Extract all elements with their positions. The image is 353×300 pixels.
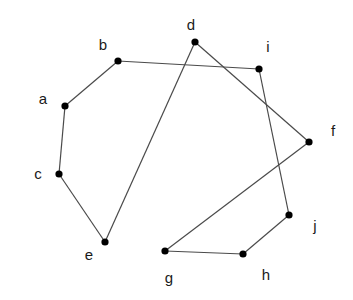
edge-a-c	[59, 106, 65, 174]
node-h	[239, 250, 246, 257]
node-g	[161, 247, 168, 254]
node-e	[101, 238, 108, 245]
node-label-b: b	[99, 36, 107, 53]
node-label-g: g	[165, 269, 173, 286]
node-label-a: a	[39, 90, 48, 107]
node-label-j: j	[312, 217, 316, 234]
node-i	[255, 65, 262, 72]
edge-i-j	[259, 69, 289, 215]
edge-j-h	[243, 215, 289, 254]
edge-a-b	[65, 61, 118, 106]
edge-b-i	[118, 61, 259, 69]
edge-d-f	[195, 42, 309, 142]
node-label-d: d	[187, 16, 195, 33]
node-b	[114, 57, 121, 64]
node-label-f: f	[331, 122, 336, 139]
node-d	[191, 38, 198, 45]
node-label-i: i	[266, 38, 269, 55]
edge-c-e	[59, 174, 105, 242]
node-f	[305, 138, 312, 145]
node-c	[55, 170, 62, 177]
node-label-c: c	[34, 165, 42, 182]
edge-g-f	[165, 142, 309, 251]
graph-diagram: abcdefghij	[0, 0, 353, 300]
node-j	[285, 211, 292, 218]
labels-layer: abcdefghij	[34, 16, 336, 286]
edge-h-g	[165, 251, 243, 254]
edge-e-d	[105, 42, 195, 242]
node-label-h: h	[262, 266, 270, 283]
node-label-e: e	[85, 246, 93, 263]
edges-layer	[59, 42, 309, 254]
node-a	[61, 102, 68, 109]
